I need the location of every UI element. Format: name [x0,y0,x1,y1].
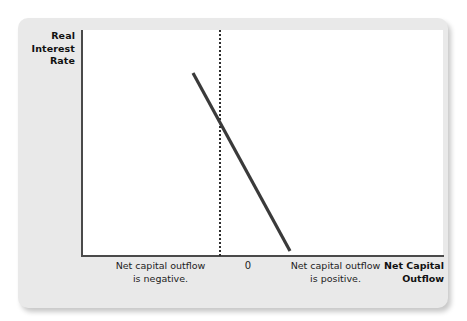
x-axis-annotations: Net capital outflow is negative. 0 Net c… [81,259,444,299]
figure-card: Real Interest Rate Net capital outflow i… [18,18,448,308]
left-region-note: Net capital outflow is negative. [93,259,228,285]
curve-line [193,73,290,251]
x-axis-title: Net Capital Outflow [334,259,444,285]
y-axis-title: Real Interest Rate [18,30,75,68]
origin-label: 0 [228,259,268,272]
net-capital-outflow-curve [82,30,443,256]
